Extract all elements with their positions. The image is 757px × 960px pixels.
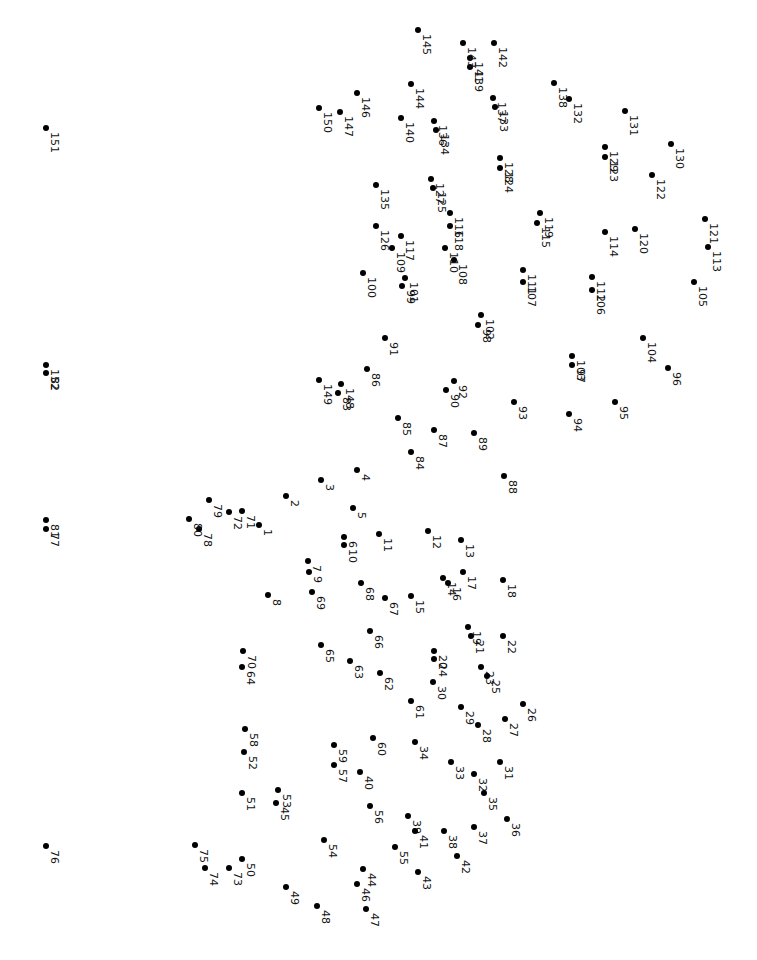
dot-149 xyxy=(316,377,322,383)
dot-label: 18 xyxy=(506,584,517,598)
dot-51 xyxy=(239,790,245,796)
dot-117 xyxy=(398,233,404,239)
dot-114 xyxy=(602,229,608,235)
dot-label: 3 xyxy=(324,484,335,491)
dot-102 xyxy=(478,312,484,318)
dot-label: 101 xyxy=(408,282,419,303)
dot-label: 148 xyxy=(344,388,355,409)
dot-135 xyxy=(373,182,379,188)
dot-104 xyxy=(640,335,646,341)
dot-84 xyxy=(408,449,414,455)
dot-23 xyxy=(478,664,484,670)
dot-152 xyxy=(43,362,49,368)
dot-label: 8 xyxy=(271,599,282,606)
dot-label: 128 xyxy=(503,162,514,183)
dot-label: 121 xyxy=(708,223,719,244)
dot-119 xyxy=(537,210,543,216)
dot-label: 102 xyxy=(484,319,495,340)
dot-20 xyxy=(431,648,437,654)
dot-label: 118 xyxy=(453,230,464,251)
dot-label: 100 xyxy=(366,277,377,298)
dot-58 xyxy=(242,726,248,732)
dot-label: 55 xyxy=(398,851,409,865)
dot-142 xyxy=(491,40,497,46)
dot-147 xyxy=(337,109,343,115)
dot-95 xyxy=(612,399,618,405)
dot-85 xyxy=(395,415,401,421)
dot-88 xyxy=(501,473,507,479)
dot-48 xyxy=(314,903,320,909)
dot-label: 131 xyxy=(628,115,639,136)
dot-label: 144 xyxy=(414,88,425,109)
dot-label: 130 xyxy=(674,148,685,169)
dot-label: 61 xyxy=(414,705,425,719)
dot-2 xyxy=(283,493,289,499)
dot-label: 42 xyxy=(460,860,471,874)
dot-79 xyxy=(206,497,212,503)
dot-47 xyxy=(363,906,369,912)
dot-13 xyxy=(458,537,464,543)
dot-label: 152 xyxy=(49,369,60,390)
dot-42 xyxy=(454,853,460,859)
dot-label: 103 xyxy=(575,360,586,381)
dot-55 xyxy=(392,844,398,850)
dot-45 xyxy=(273,800,279,806)
dot-66 xyxy=(367,628,373,634)
dot-121 xyxy=(702,216,708,222)
dot-60 xyxy=(370,735,376,741)
dot-24 xyxy=(431,656,437,662)
dot-29 xyxy=(458,704,464,710)
dot-127 xyxy=(428,176,434,182)
dot-144 xyxy=(408,81,414,87)
dot-138 xyxy=(551,80,557,86)
dot-101 xyxy=(402,275,408,281)
dot-62 xyxy=(377,670,383,676)
dot-label: 60 xyxy=(376,742,387,756)
dot-label: 43 xyxy=(421,876,432,890)
dot-label: 12 xyxy=(431,535,442,549)
dot-label: 62 xyxy=(383,677,394,691)
dot-33 xyxy=(448,759,454,765)
dot-103 xyxy=(569,353,575,359)
dot-93 xyxy=(511,399,517,405)
dot-label: 5 xyxy=(356,512,367,519)
dot-to-dot-puzzle: 1234567891011121314151617181920212223242… xyxy=(0,0,757,960)
dot-18 xyxy=(500,577,506,583)
dot-label: 25 xyxy=(490,680,501,694)
dot-145 xyxy=(415,27,421,33)
dot-label: 117 xyxy=(404,240,415,261)
dot-136 xyxy=(431,118,437,124)
dot-label: 69 xyxy=(315,596,326,610)
dot-65 xyxy=(318,642,324,648)
dot-40 xyxy=(357,769,363,775)
dot-label: 10 xyxy=(347,549,358,563)
dot-label: 54 xyxy=(327,844,338,858)
dot-label: 87 xyxy=(437,434,448,448)
dot-15 xyxy=(408,593,414,599)
dot-label: 26 xyxy=(526,708,537,722)
dot-74 xyxy=(202,865,208,871)
dot-label: 138 xyxy=(557,87,568,108)
dot-122 xyxy=(649,172,655,178)
dot-label: 4 xyxy=(360,474,371,481)
dot-151 xyxy=(43,125,49,131)
dot-label: 95 xyxy=(618,406,629,420)
dot-label: 91 xyxy=(388,342,399,356)
dot-36 xyxy=(504,816,510,822)
dot-label: 48 xyxy=(320,910,331,924)
dot-label: 33 xyxy=(454,766,465,780)
dot-label: 67 xyxy=(388,602,399,616)
dot-label: 75 xyxy=(198,849,209,863)
dot-113 xyxy=(705,244,711,250)
dot-31 xyxy=(497,759,503,765)
dot-label: 45 xyxy=(279,807,290,821)
dot-label: 142 xyxy=(497,47,508,68)
dot-129 xyxy=(602,144,608,150)
dot-label: 36 xyxy=(510,823,521,837)
dot-label: 66 xyxy=(373,635,384,649)
dot-17 xyxy=(460,569,466,575)
dot-99 xyxy=(399,283,405,289)
dot-34 xyxy=(412,739,418,745)
dot-label: 140 xyxy=(404,122,415,143)
dot-44 xyxy=(360,866,366,872)
